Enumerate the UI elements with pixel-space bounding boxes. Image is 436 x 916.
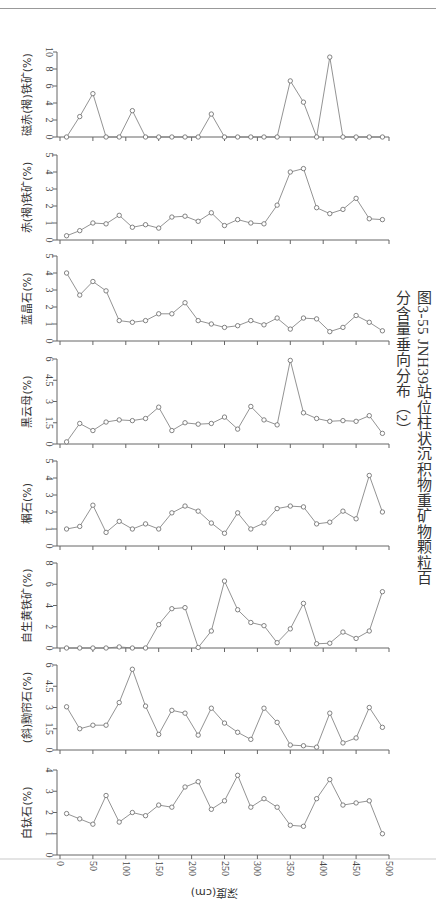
series-line: [67, 669, 383, 747]
data-point: [249, 318, 253, 322]
data-point: [262, 418, 266, 422]
data-point: [354, 196, 358, 200]
data-point: [170, 215, 174, 219]
data-point: [64, 705, 68, 709]
data-point: [209, 706, 213, 710]
data-point: [196, 645, 200, 649]
data-point: [262, 623, 266, 627]
data-point: [157, 312, 161, 316]
y-tick-label: 4: [44, 170, 55, 175]
data-point: [117, 519, 121, 523]
x-tick-label: 100: [121, 861, 132, 876]
x-tick-label: 400: [318, 861, 329, 876]
y-tick-label: 3: [44, 288, 55, 293]
data-point: [301, 601, 305, 605]
data-point: [328, 329, 332, 333]
data-point: [104, 222, 108, 226]
data-point: [314, 642, 318, 646]
data-point: [222, 579, 226, 583]
y-axis-label: 蓝晶石(%): [21, 272, 34, 324]
data-point: [143, 135, 147, 139]
data-point: [91, 646, 95, 650]
x-tick-label: 50: [88, 861, 99, 871]
data-point: [367, 705, 371, 709]
data-point: [314, 745, 318, 749]
data-point: [130, 810, 134, 814]
data-point: [209, 629, 213, 633]
data-point: [328, 211, 332, 215]
y-tick-label: 3: [44, 399, 55, 404]
data-point: [157, 732, 161, 736]
data-point: [91, 822, 95, 826]
data-point: [249, 737, 253, 741]
data-point: [288, 743, 292, 747]
y-tick-label: 3: [44, 705, 55, 710]
data-point: [301, 316, 305, 320]
data-point: [64, 440, 68, 444]
data-point: [341, 418, 345, 422]
data-point: [78, 646, 82, 650]
y-tick-label: 0: [44, 544, 55, 549]
y-tick-label: 4: [44, 603, 55, 608]
series-line: [67, 775, 383, 834]
data-point: [104, 530, 108, 534]
data-point: [222, 415, 226, 419]
x-tick-label: 450: [351, 861, 362, 876]
data-point: [209, 322, 213, 326]
panel-5: 012345榍石(%): [20, 459, 389, 551]
panel-3: 012345蓝晶石(%): [21, 254, 389, 346]
data-point: [328, 55, 332, 59]
panel-8: 01234白钛石(%)05010015020025030035040045050…: [20, 768, 395, 901]
data-point: [367, 320, 371, 324]
data-point: [314, 206, 318, 210]
data-point: [380, 329, 384, 333]
data-point: [78, 421, 82, 425]
data-point: [130, 225, 134, 229]
y-tick-label: 8: [44, 561, 55, 566]
y-axis-label: 黑云母(%): [21, 375, 34, 427]
data-point: [380, 589, 384, 593]
y-tick-label: 6: [44, 582, 55, 587]
data-point: [196, 422, 200, 426]
data-point: [288, 823, 292, 827]
x-tick-label: 200: [187, 861, 198, 876]
data-point: [183, 214, 187, 218]
data-point: [183, 504, 187, 508]
data-point: [354, 135, 358, 139]
data-point: [341, 325, 345, 329]
data-point: [130, 646, 134, 650]
data-point: [78, 727, 82, 731]
data-point: [341, 630, 345, 634]
y-tick-label: 4.5: [44, 374, 55, 387]
x-tick-label: 350: [285, 861, 296, 876]
data-point: [367, 799, 371, 803]
data-point: [341, 135, 345, 139]
data-point: [275, 316, 279, 320]
data-point: [157, 135, 161, 139]
data-point: [143, 522, 147, 526]
figure-caption: 图3-55 JNH39站位柱状沉积物重矿物颗粒百分含量垂向分布（2）: [404, 290, 434, 600]
data-point: [183, 421, 187, 425]
data-point: [170, 708, 174, 712]
x-tick-label: 0: [55, 861, 66, 866]
series-line: [67, 581, 383, 648]
x-axis-label: 深度(cm): [191, 886, 238, 900]
data-point: [367, 413, 371, 417]
data-point: [301, 100, 305, 104]
y-tick-label: 2: [44, 624, 55, 629]
data-point: [196, 219, 200, 223]
data-point: [222, 135, 226, 139]
y-axis-label: 白钛石(%): [20, 786, 34, 838]
data-point: [328, 520, 332, 524]
data-point: [196, 135, 200, 139]
data-point: [222, 721, 226, 725]
data-point: [354, 313, 358, 317]
data-point: [301, 411, 305, 415]
data-point: [354, 801, 358, 805]
y-tick-label: 1: [44, 831, 55, 836]
data-point: [143, 318, 147, 322]
data-point: [262, 323, 266, 327]
data-point: [157, 226, 161, 230]
data-point: [91, 503, 95, 507]
data-point: [157, 803, 161, 807]
